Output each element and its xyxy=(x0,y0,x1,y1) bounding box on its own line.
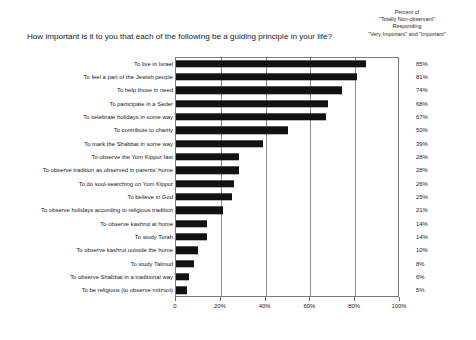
bar-value-label: 14% xyxy=(416,220,428,227)
bar-value-label: 25% xyxy=(416,193,428,200)
bar xyxy=(176,113,326,120)
axis-tick-mark xyxy=(354,297,355,301)
bar-category-label: To do soul-searching on Yom Kippur xyxy=(79,180,173,187)
bar-value-label: 21% xyxy=(416,207,428,214)
bar-row: To participate in a Seder68% xyxy=(0,97,476,110)
bar-value-label: 74% xyxy=(416,87,428,94)
bar xyxy=(176,193,232,200)
subtitle-line: "Totally Non-observant" xyxy=(340,16,474,23)
axis-tick-mark xyxy=(399,297,400,301)
bar-rows: To live in Israel85%To feel a part of th… xyxy=(0,57,476,297)
bar-value-label: 14% xyxy=(416,233,428,240)
bar-category-label: To observe holidays according to religio… xyxy=(41,207,173,214)
bar-value-label: 50% xyxy=(416,127,428,134)
axis-tick-label: 60% xyxy=(303,302,315,310)
bar-category-label: To contribute to charity xyxy=(114,127,173,134)
bar xyxy=(176,60,366,67)
bar-value-label: 85% xyxy=(416,60,428,67)
bar-value-label: 26% xyxy=(416,180,428,187)
axis-tick-label: 40% xyxy=(259,302,271,310)
bar-row: To help those in need74% xyxy=(0,84,476,97)
bar-value-label: 28% xyxy=(416,167,428,174)
bar-category-label: To observe tradition as observed in pare… xyxy=(43,167,173,174)
bar-category-label: To study Talmud xyxy=(131,260,173,267)
axis-tick-mark xyxy=(220,297,221,301)
bar-category-label: To feel a part of the Jewish people xyxy=(84,73,173,80)
bar-category-label: To mark the Shabbat in some way xyxy=(84,140,173,147)
survey-bar-chart: Percent of"Totally Non-observant"Respond… xyxy=(0,0,476,340)
axis-tick-label: 0 xyxy=(173,302,176,310)
bar-category-label: To help those in need xyxy=(117,87,173,94)
subtitle-line: "Very Important" and "Important" xyxy=(340,31,474,38)
bar xyxy=(176,180,234,187)
bar-value-label: 5% xyxy=(416,287,425,294)
bar-row: To celebrate holidays in some way67% xyxy=(0,110,476,123)
bar-row: To study Torah14% xyxy=(0,230,476,243)
bar-row: To feel a part of the Jewish people81% xyxy=(0,70,476,83)
bar-value-label: 10% xyxy=(416,247,428,254)
bar xyxy=(176,220,207,227)
axis-tick-label: 80% xyxy=(348,302,360,310)
bar-row: To believe in God25% xyxy=(0,190,476,203)
bar-value-label: 28% xyxy=(416,153,428,160)
bar-category-label: To be religious (to observe mitzvot) xyxy=(82,287,173,294)
bar-row: To contribute to charity50% xyxy=(0,124,476,137)
bar-row: To observe Shabbat in a traditional way6… xyxy=(0,270,476,283)
bar-row: To observe tradition as observed in pare… xyxy=(0,164,476,177)
axis-tick-label: 100% xyxy=(391,302,406,310)
subtitle-line: Percent of xyxy=(340,9,474,16)
chart-title: How important is it to you that each of … xyxy=(27,31,332,42)
bar xyxy=(176,153,239,160)
bar-row: To do soul-searching on Yom Kippur26% xyxy=(0,177,476,190)
bar-value-label: 39% xyxy=(416,140,428,147)
bar-row: To be religious (to observe mitzvot)5% xyxy=(0,284,476,297)
bar-category-label: To study Torah xyxy=(135,233,173,240)
bar xyxy=(176,287,187,294)
bar-row: To mark the Shabbat in some way39% xyxy=(0,137,476,150)
bar-row: To observe kashrut at home14% xyxy=(0,217,476,230)
bar xyxy=(176,247,198,254)
bar xyxy=(176,167,239,174)
bar-category-label: To observe Shabbat in a traditional way xyxy=(70,273,173,280)
axis-tick-mark xyxy=(175,297,176,301)
bar-row: To study Talmud8% xyxy=(0,257,476,270)
axis-tick-mark xyxy=(265,297,266,301)
bar xyxy=(176,100,328,107)
bar xyxy=(176,207,223,214)
bar-category-label: To observe kashrut outside the home xyxy=(76,247,173,254)
bar-value-label: 6% xyxy=(416,273,425,280)
bar xyxy=(176,273,189,280)
bar-value-label: 68% xyxy=(416,100,428,107)
bar-value-label: 81% xyxy=(416,73,428,80)
bar-category-label: To observe the Yom Kippur fast xyxy=(91,153,173,160)
bar-category-label: To celebrate holidays in some way xyxy=(83,113,173,120)
bar xyxy=(176,87,342,94)
x-axis: 020%40%60%80%100% xyxy=(175,297,399,315)
bar-value-label: 67% xyxy=(416,113,428,120)
bar xyxy=(176,73,357,80)
bar-category-label: To live in Israel xyxy=(134,60,173,67)
axis-tick-mark xyxy=(309,297,310,301)
bar-category-label: To believe in God xyxy=(127,193,173,200)
chart-subtitle-note: Percent of"Totally Non-observant"Respond… xyxy=(340,9,474,38)
bar-row: To observe holidays according to religio… xyxy=(0,204,476,217)
bar-category-label: To participate in a Seder xyxy=(109,100,173,107)
axis-tick-label: 20% xyxy=(214,302,226,310)
bar-row: To observe kashrut outside the home10% xyxy=(0,244,476,257)
bar xyxy=(176,127,288,134)
bar-category-label: To observe kashrut at home xyxy=(100,220,173,227)
bar xyxy=(176,233,207,240)
bar-row: To observe the Yom Kippur fast28% xyxy=(0,150,476,163)
subtitle-line: Responding xyxy=(340,23,474,30)
bar xyxy=(176,260,194,267)
bar-row: To live in Israel85% xyxy=(0,57,476,70)
bar-value-label: 8% xyxy=(416,260,425,267)
bar xyxy=(176,140,263,147)
